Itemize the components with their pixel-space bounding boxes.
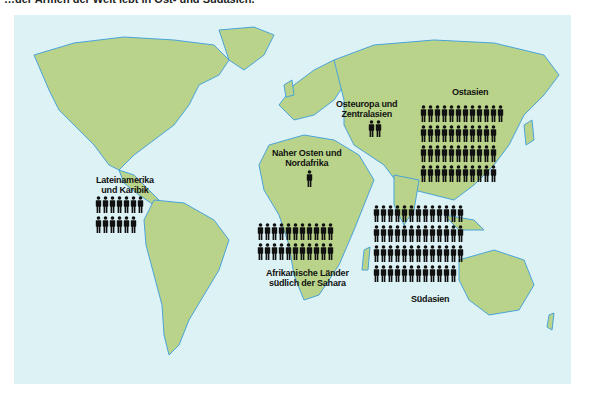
person-icon	[448, 145, 455, 162]
person-icon	[427, 125, 434, 142]
person-icon	[448, 165, 455, 182]
person-icon	[373, 225, 380, 242]
person-icon	[123, 216, 130, 233]
person-icon	[443, 205, 450, 222]
group-suedasien	[373, 205, 464, 285]
label-line: Zentralasien	[336, 109, 397, 119]
person-icon	[441, 105, 448, 122]
person-icon	[429, 265, 436, 282]
person-icon	[271, 223, 278, 240]
person-icon	[380, 205, 387, 222]
group-afrika	[257, 223, 334, 263]
figure-title: …der Armen der Welt lebt in Ost- und Süd…	[4, 0, 255, 5]
person-icon	[387, 265, 394, 282]
person-icon	[455, 105, 462, 122]
person-icon	[455, 165, 462, 182]
person-icon	[264, 243, 271, 260]
person-icon	[455, 145, 462, 162]
label-line: Osteuropa und	[336, 99, 397, 109]
figure-row	[257, 223, 334, 240]
person-icon	[257, 223, 264, 240]
person-icon	[264, 223, 271, 240]
person-icon	[483, 125, 490, 142]
person-icon	[292, 223, 299, 240]
figure-row	[368, 120, 382, 137]
person-icon	[368, 120, 375, 137]
person-icon	[469, 145, 476, 162]
world-map: Lateinamerika und Karibik Naher Osten un…	[14, 15, 571, 384]
person-icon	[441, 165, 448, 182]
person-icon	[278, 243, 285, 260]
person-icon	[436, 225, 443, 242]
person-icon	[313, 223, 320, 240]
person-icon	[257, 243, 264, 260]
person-icon	[130, 216, 137, 233]
person-icon	[415, 265, 422, 282]
figure-row	[306, 170, 313, 187]
person-icon	[450, 205, 457, 222]
label-ostasien: Ostasien	[452, 87, 488, 97]
person-icon	[462, 145, 469, 162]
figure-row	[420, 145, 504, 162]
person-icon	[95, 196, 102, 213]
person-icon	[490, 165, 497, 182]
person-icon	[285, 243, 292, 260]
person-icon	[443, 265, 450, 282]
person-icon	[401, 245, 408, 262]
label-line: Südasien	[411, 294, 449, 304]
person-icon	[420, 105, 427, 122]
person-icon	[415, 245, 422, 262]
person-icon	[394, 265, 401, 282]
person-icon	[441, 145, 448, 162]
person-icon	[429, 225, 436, 242]
person-icon	[320, 243, 327, 260]
person-icon	[469, 125, 476, 142]
figure-row	[420, 105, 504, 122]
person-icon	[448, 105, 455, 122]
person-icon	[483, 145, 490, 162]
label-line: südlich der Sahara	[266, 278, 349, 288]
person-icon	[387, 225, 394, 242]
person-icon	[476, 165, 483, 182]
person-icon	[457, 225, 464, 242]
person-icon	[116, 196, 123, 213]
figure-row	[420, 125, 504, 142]
person-icon	[462, 105, 469, 122]
person-icon	[420, 145, 427, 162]
person-icon	[394, 225, 401, 242]
group-lateinamerika	[95, 196, 144, 236]
figure-row	[373, 205, 464, 222]
person-icon	[271, 243, 278, 260]
label-afrika: Afrikanische Länder südlich der Sahara	[266, 268, 349, 288]
person-icon	[299, 223, 306, 240]
person-icon	[373, 265, 380, 282]
person-icon	[420, 125, 427, 142]
person-icon	[483, 105, 490, 122]
figure-row	[373, 245, 464, 262]
person-icon	[448, 125, 455, 142]
person-icon	[116, 216, 123, 233]
person-icon	[422, 245, 429, 262]
person-icon	[102, 196, 109, 213]
person-icon	[394, 245, 401, 262]
figure-row	[95, 196, 144, 213]
person-icon	[327, 223, 334, 240]
person-icon	[483, 165, 490, 182]
person-icon	[408, 245, 415, 262]
person-icon	[306, 243, 313, 260]
person-icon	[109, 216, 116, 233]
person-icon	[299, 243, 306, 260]
label-osteuropa: Osteuropa und Zentralasien	[336, 99, 397, 119]
person-icon	[380, 245, 387, 262]
person-icon	[462, 125, 469, 142]
person-icon	[427, 145, 434, 162]
person-icon	[422, 225, 429, 242]
person-icon	[408, 265, 415, 282]
person-icon	[434, 105, 441, 122]
group-osteuropa	[368, 120, 382, 140]
label-line: Lateinamerika	[96, 175, 154, 185]
group-naher-osten	[306, 170, 313, 190]
person-icon	[455, 125, 462, 142]
person-icon	[327, 243, 334, 260]
person-icon	[394, 205, 401, 222]
